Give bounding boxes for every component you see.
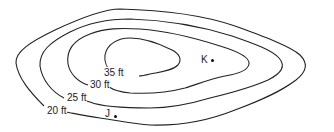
point-label-j: J — [104, 108, 111, 119]
contour-label-30ft: 30 ft — [89, 79, 110, 90]
point-k-marker-icon — [211, 59, 214, 62]
point-j-marker-icon — [114, 115, 117, 118]
contour-label-35ft: 35 ft — [103, 67, 124, 78]
contour-label-25ft: 25 ft — [66, 92, 87, 103]
point-label-k: K — [200, 54, 209, 65]
contour-label-20ft: 20 ft — [46, 105, 67, 116]
